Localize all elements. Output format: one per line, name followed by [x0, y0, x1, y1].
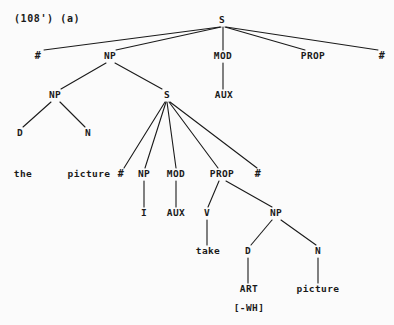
- tree-node-picture2: picture: [297, 284, 340, 294]
- tree-node-take: take: [196, 246, 220, 256]
- tree-node-i1: I: [141, 208, 147, 218]
- tree-edge-np1-to-s1: [115, 63, 162, 89]
- tree-edge-np1-to-np2: [61, 63, 106, 89]
- tree-edges-layer: [0, 0, 394, 325]
- tree-edge-np4-to-d2: [251, 220, 272, 245]
- tree-edge-np4-to-n2: [281, 220, 316, 245]
- tree-node-hash-l2: #: [118, 169, 124, 179]
- tree-node-s1: S: [164, 90, 170, 100]
- tree-edge-s1-to-np3: [145, 102, 166, 168]
- tree-edge-s0-to-prop1: [225, 27, 305, 50]
- tree-node-np3: NP: [138, 169, 150, 179]
- tree-node-n2: N: [315, 246, 321, 256]
- tree-node-v1: V: [204, 208, 210, 218]
- tree-node-d2: D: [245, 246, 251, 256]
- tree-node-d1: D: [17, 128, 23, 138]
- tree-edge-s1-to-mod2: [167, 102, 176, 168]
- tree-node-n1: N: [85, 128, 91, 138]
- figure-caption: (108') (a): [14, 14, 80, 24]
- tree-node-mod1: MOD: [214, 51, 232, 61]
- tree-node-prop2: PROP: [210, 169, 234, 179]
- tree-node-mod2: MOD: [167, 169, 185, 179]
- tree-node-s0: S: [219, 15, 225, 25]
- tree-node-aux1: AUX: [215, 90, 233, 100]
- tree-edge-s0-to-hash_r: [226, 27, 378, 50]
- tree-node-hash-r2: #: [255, 169, 261, 179]
- tree-edge-prop2-to-np4: [226, 181, 272, 207]
- tree-node-np4: NP: [270, 208, 282, 218]
- tree-edge-prop2-to-v1: [208, 181, 219, 207]
- tree-node-aux2: AUX: [167, 208, 185, 218]
- tree-edge-s1-to-hash_r2: [170, 102, 257, 168]
- tree-edge-s1-to-hash_l2: [124, 102, 165, 168]
- tree-node-the: the: [14, 169, 32, 179]
- tree-node-np2: NP: [49, 90, 61, 100]
- tree-edge-np2-to-n1: [60, 102, 85, 127]
- tree-node-hash-r: #: [379, 51, 385, 61]
- tree-edge-np2-to-d1: [23, 102, 51, 127]
- tree-node-hash-l: #: [35, 51, 41, 61]
- tree-node-art: ART: [240, 284, 258, 294]
- tree-edge-s1-to-prop2: [169, 102, 218, 168]
- tree-node-prop1: PROP: [301, 51, 325, 61]
- tree-node-wh: [-WH]: [234, 303, 265, 313]
- figure-canvas: (108') (a) S#NPMODPROP#NPSAUXDNthepictur…: [0, 0, 394, 325]
- tree-node-np1: NP: [104, 51, 116, 61]
- tree-node-picture1: picture: [68, 169, 111, 179]
